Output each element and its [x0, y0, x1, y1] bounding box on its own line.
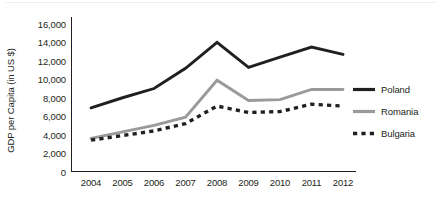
series-line-bulgaria	[91, 104, 343, 140]
legend-label-bulgaria: Bulgaria	[381, 128, 415, 139]
legend-swatch-romania	[352, 106, 376, 117]
legend-swatch-poland	[352, 84, 376, 95]
legend-item-bulgaria: Bulgaria	[352, 122, 442, 144]
series-line-poland	[91, 42, 343, 107]
legend-item-poland: Poland	[352, 78, 442, 100]
chart-figure: GDP per Capita (in US $) 02,0004,0006,00…	[0, 0, 442, 201]
series-line-romania	[91, 80, 343, 138]
legend-item-romania: Romania	[352, 100, 442, 122]
legend-label-romania: Romania	[381, 106, 418, 117]
legend-label-poland: Poland	[381, 84, 410, 95]
legend-swatch-bulgaria	[352, 128, 376, 139]
legend: Poland Romania Bulgaria	[352, 78, 442, 144]
